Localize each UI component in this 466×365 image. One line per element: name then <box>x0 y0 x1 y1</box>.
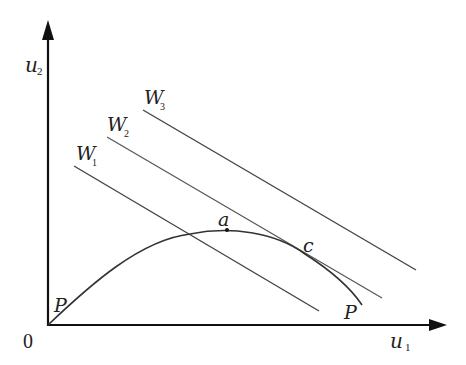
w3-subscript: 3 <box>160 101 165 112</box>
welfare-line-w1 <box>74 166 319 311</box>
x-axis-subscript: 1 <box>405 341 411 353</box>
welfare-line-w3 <box>143 110 416 270</box>
x-axis-arrow-icon <box>429 319 447 331</box>
point-c-label: c <box>303 234 314 256</box>
x-axis-label: u <box>390 329 403 353</box>
utility-possibility-curve <box>48 231 362 325</box>
y-axis-label: u <box>25 53 38 77</box>
welfare-line-w2 <box>107 137 382 298</box>
curve-start-label: P <box>53 294 68 316</box>
y-axis-subscript: 2 <box>37 65 43 77</box>
point-a-label: a <box>218 208 229 230</box>
origin-label: 0 <box>23 330 33 352</box>
curve-end-label: P <box>343 301 358 323</box>
diagram-canvas: u 2 u 1 0 W 1 W 2 W 3 a c P P <box>0 0 466 365</box>
w2-subscript: 2 <box>124 128 129 139</box>
y-axis-arrow-icon <box>42 20 54 40</box>
w1-subscript: 1 <box>92 157 97 168</box>
